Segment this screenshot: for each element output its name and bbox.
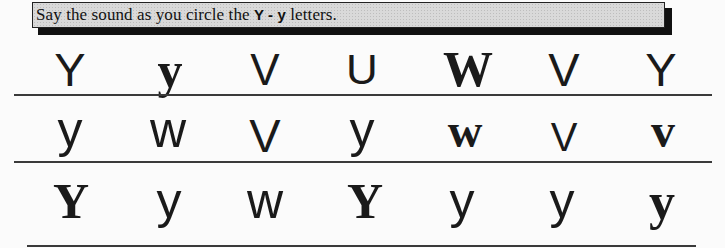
letter[interactable]: U [346,49,378,91]
letter[interactable]: Y [53,176,89,226]
letter[interactable]: v [651,107,675,155]
instruction-target-letters: Y - y [254,6,286,23]
letter[interactable]: y [58,105,83,155]
letter[interactable]: V [548,46,579,93]
letter[interactable]: y [649,176,675,228]
row-1-baseline [14,94,712,96]
letter[interactable]: y [158,45,183,95]
letter[interactable]: Y [347,176,383,226]
instruction-suffix: letters. [286,5,337,24]
instruction-prefix: Say the sound as you circle the [36,5,254,24]
letter[interactable]: Y [54,46,85,93]
letter[interactable]: V [249,112,280,159]
letter[interactable]: Y [645,46,676,93]
instruction-text: Say the sound as you circle the Y - y le… [36,5,337,25]
letter[interactable]: w [247,176,283,226]
letter[interactable]: y [157,176,182,226]
row-2-baseline [14,161,712,163]
letter[interactable]: W [443,44,493,94]
letter[interactable]: w [448,107,483,155]
letter[interactable]: y [450,176,475,226]
letter[interactable]: V [551,117,578,157]
letter[interactable]: w [150,105,186,155]
row-3-baseline [27,245,696,247]
letter[interactable]: V [250,48,279,92]
instruction-banner: Say the sound as you circle the Y - y le… [32,2,665,28]
letter[interactable]: y [550,176,575,226]
letter[interactable]: y [350,105,375,155]
